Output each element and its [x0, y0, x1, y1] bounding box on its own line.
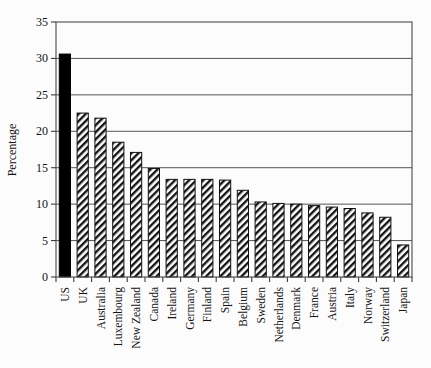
x-axis-category-label: New Zealand [130, 287, 142, 349]
x-axis-category-label: Ireland [166, 287, 178, 320]
bar-chart-figure: 05101520253035 USUKAustraliaLuxembourgNe… [0, 0, 431, 368]
bar [184, 179, 195, 277]
bar [166, 179, 177, 277]
bar [308, 206, 319, 277]
x-axis-category-label: Belgium [237, 287, 250, 327]
y-tick-label: 15 [36, 161, 48, 175]
x-axis-category-label: Switzerland [379, 287, 391, 342]
bar [130, 152, 141, 277]
bar [77, 113, 88, 277]
bar [219, 180, 230, 277]
y-tick-label: 10 [36, 197, 48, 211]
x-axis-category-label: Spain [219, 287, 232, 313]
bar [326, 207, 337, 277]
bar [202, 179, 213, 277]
x-axis-category-label: Luxembourg [112, 287, 125, 346]
y-tick-label: 5 [42, 234, 48, 248]
chart-svg: 05101520253035 USUKAustraliaLuxembourgNe… [0, 0, 431, 368]
bar [273, 203, 284, 277]
bar [380, 217, 391, 277]
y-tick-label: 30 [36, 51, 48, 65]
x-axis-category-label: Canada [148, 287, 160, 321]
y-tick-label: 35 [36, 15, 48, 29]
x-axis-category-label: Netherlands [273, 286, 285, 342]
x-axis-category-label: Finland [201, 287, 213, 322]
x-axis-category-label: Australia [95, 287, 107, 329]
y-tick-label: 25 [36, 88, 48, 102]
bar [113, 142, 124, 277]
x-axis-category-label: Sweden [255, 287, 267, 324]
x-axis-category-label: Germany [184, 287, 197, 330]
x-axis-category-label: Italy [344, 287, 357, 308]
bar [397, 245, 408, 277]
bar [344, 209, 355, 277]
y-tick-label: 0 [42, 270, 48, 284]
x-axis-category-label: Japan [397, 287, 410, 313]
x-axis-category-label: France [308, 287, 320, 318]
bar [95, 118, 106, 277]
x-axis-ticks [56, 277, 412, 282]
x-axis-category-label: UK [77, 286, 89, 303]
bar [148, 168, 159, 277]
bar [237, 190, 248, 277]
bar [362, 213, 373, 277]
bar [59, 54, 70, 277]
x-axis-category-label: US [59, 287, 71, 302]
bar [291, 204, 302, 277]
x-axis-category-label: Denmark [290, 287, 302, 330]
x-axis-category-label: Norway [362, 287, 375, 324]
y-tick-label: 20 [36, 124, 48, 138]
x-axis-category-label: Austria [326, 287, 338, 321]
bar [255, 202, 266, 277]
y-axis-title: Percentage [5, 124, 19, 177]
